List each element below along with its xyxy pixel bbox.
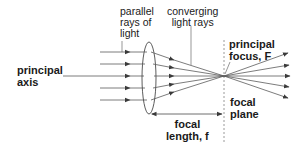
parallel-rays-label: parallel rays of light [120, 6, 154, 39]
principal-focus-leader [225, 62, 230, 74]
principal-focus-label: principal focus, F [229, 38, 275, 62]
converging-rays-label: converging light rays [167, 6, 218, 28]
focal-length-label: focal length, f [166, 118, 209, 142]
lens-diagram: parallel rays of light converging light … [0, 0, 303, 144]
converging-rays [151, 52, 224, 100]
principal-axis-label: principal axis [17, 64, 63, 88]
focal-plane-label: focal plane [230, 96, 259, 120]
incoming-rays [100, 52, 147, 100]
